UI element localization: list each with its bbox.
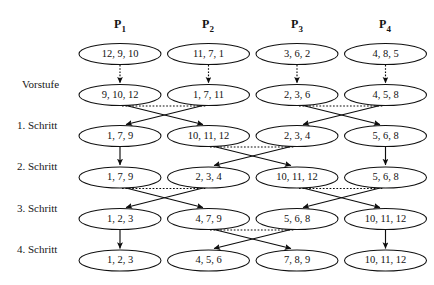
- node-label: 10, 11, 12: [188, 130, 230, 141]
- node-label: 4, 5, 6: [195, 254, 221, 265]
- node-label: 3, 6, 2: [284, 48, 310, 59]
- edges-schritt-3: [122, 188, 384, 208]
- node-label: 5, 6, 8: [284, 213, 310, 224]
- node-label: 7, 8, 9: [284, 254, 310, 265]
- node-label: 1, 7, 11: [193, 89, 224, 100]
- node-label: 10, 11, 12: [365, 213, 407, 224]
- node-row-4: 1, 2, 3 4, 7, 9 5, 6, 8 10, 11, 12: [79, 209, 427, 230]
- node-label: 10, 11, 12: [276, 171, 318, 182]
- node-row-0: 12, 9, 10 11, 7, 1 3, 6, 2 4, 8, 5: [79, 44, 427, 65]
- edges-schritt-4: [120, 230, 386, 249]
- node-label: 1, 2, 3: [107, 254, 133, 265]
- node-label: 4, 5, 8: [372, 89, 398, 100]
- node-label: 4, 7, 9: [195, 213, 221, 224]
- edges-schritt-2: [120, 147, 386, 166]
- node-label: 1, 7, 9: [107, 171, 133, 182]
- node-row-5: 1, 2, 3 4, 5, 6 7, 8, 9 10, 11, 12: [79, 250, 427, 271]
- node-label: 11, 7, 1: [193, 48, 224, 59]
- edges-schritt-1: [122, 106, 384, 125]
- node-row-1: 9, 10, 12 1, 7, 11 2, 3, 6 4, 5, 8: [79, 85, 427, 106]
- node-label: 1, 7, 9: [107, 130, 133, 141]
- node-row-2: 1, 7, 9 10, 11, 12 2, 3, 4 5, 6, 8: [79, 126, 427, 147]
- node-row-3: 1, 7, 9 2, 3, 4 10, 11, 12 5, 6, 8: [79, 167, 427, 188]
- sorting-network-diagram: P1 P2 P3 P4 Vorstufe 1. Schritt 2. Schri…: [0, 0, 434, 285]
- node-label: 4, 8, 5: [372, 48, 398, 59]
- node-label: 5, 6, 8: [372, 171, 398, 182]
- node-label: 2, 3, 6: [284, 89, 310, 100]
- node-label: 12, 9, 10: [102, 48, 139, 59]
- edges-vorstufe: [120, 65, 386, 83]
- node-label: 5, 6, 8: [372, 130, 398, 141]
- node-label: 10, 11, 12: [365, 254, 407, 265]
- node-label: 2, 3, 4: [195, 171, 222, 182]
- network-edges-canvas: 12, 9, 10 11, 7, 1 3, 6, 2 4, 8, 5 9, 10…: [0, 0, 434, 285]
- node-label: 1, 2, 3: [107, 213, 133, 224]
- node-label: 2, 3, 4: [284, 130, 311, 141]
- node-label: 9, 10, 12: [102, 89, 139, 100]
